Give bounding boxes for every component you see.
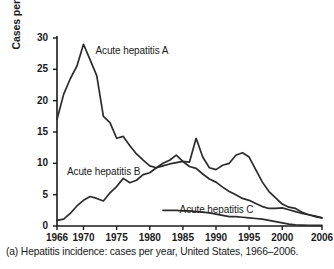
y-tick-label: 25 (26, 63, 48, 74)
x-tick-label: 1985 (166, 232, 200, 243)
y-tick-label: 15 (26, 126, 48, 137)
x-tick-label: 1990 (199, 232, 233, 243)
x-tick-label: 1970 (67, 232, 101, 243)
x-tick-label: 2000 (265, 232, 299, 243)
x-tick-label: 2006 (305, 232, 334, 243)
series-label-hepatitis-c: Acute hepatitis C (180, 204, 254, 215)
y-tick-label: 0 (26, 220, 48, 231)
y-tick-label: 20 (26, 95, 48, 106)
chart-plot-area: Cases per 100,000 population 05101520253… (0, 0, 334, 243)
series-label-hepatitis-b: Acute hepatitis B (67, 166, 140, 177)
x-tick-label: 1980 (133, 232, 167, 243)
y-tick-label: 5 (26, 189, 48, 200)
hepatitis-incidence-figure: Cases per 100,000 population 05101520253… (0, 0, 334, 269)
x-tick-label: 1975 (100, 232, 134, 243)
series-label-hepatitis-a: Acute hepatitis A (95, 45, 168, 56)
chart-canvas (0, 0, 334, 243)
y-tick-label: 30 (26, 32, 48, 43)
series-group (57, 44, 322, 225)
y-tick-label: 10 (26, 157, 48, 168)
x-tick-label: 1995 (232, 232, 266, 243)
series-line-hepatitis-a (57, 44, 322, 218)
figure-caption: (a) Hepatitis incidence: cases per year,… (6, 246, 298, 257)
axes-group (53, 36, 322, 230)
